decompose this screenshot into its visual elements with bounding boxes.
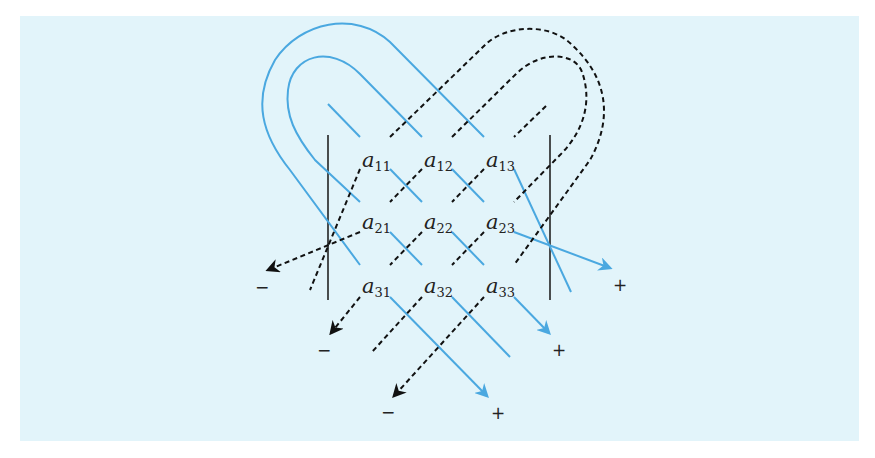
plus-label-3: +: [491, 403, 505, 423]
entry-a31: a31: [362, 274, 391, 300]
entry-a22: a22: [424, 210, 453, 236]
entry-a21: a21: [362, 210, 391, 236]
plus-label-1: +: [613, 275, 627, 295]
entry-a32: a32: [424, 274, 453, 300]
matrix-entries: a11 a12 a13 a21 a22 a23 a31 a32 a33: [362, 148, 515, 300]
entry-a11: a11: [362, 148, 391, 174]
plus-label-2: +: [552, 340, 566, 360]
entry-a12: a12: [424, 148, 453, 174]
entry-a23: a23: [486, 210, 515, 236]
entry-a33: a33: [486, 274, 515, 300]
minus-label-1: −: [255, 277, 269, 297]
minus-label-3: −: [381, 402, 395, 422]
entry-a13: a13: [486, 148, 515, 174]
minus-label-2: −: [317, 340, 331, 360]
sarrus-rule-diagram: a11 a12 a13 a21 a22 a23 a31 a32 a33 − − …: [0, 0, 875, 458]
